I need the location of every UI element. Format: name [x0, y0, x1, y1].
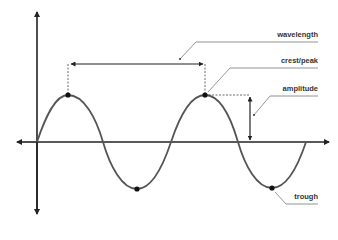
trough-point-2 [269, 185, 274, 190]
crest-point-2 [202, 92, 207, 97]
trough-point-1 [134, 186, 139, 191]
trough-label: trough [294, 192, 318, 201]
crest-point-1 [65, 92, 70, 97]
amplitude-label: amplitude [283, 84, 318, 93]
wavelength-label: wavelength [277, 30, 318, 39]
amplitude-leader [254, 96, 318, 115]
dashed-guides [68, 64, 250, 95]
crest-label: crest/peak [281, 56, 318, 65]
leader-lines [179, 42, 318, 204]
